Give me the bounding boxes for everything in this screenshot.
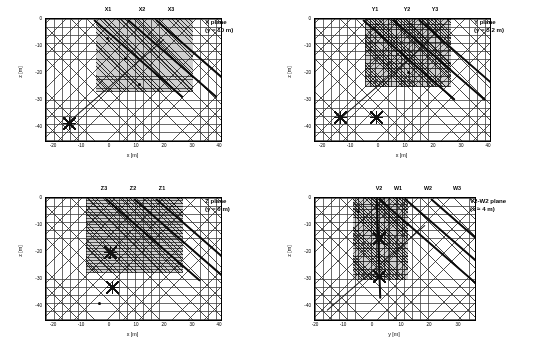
x-tick: 20 <box>161 322 166 327</box>
borehole-label: W2 <box>424 185 432 191</box>
node-cluster <box>106 281 119 294</box>
x-tick: 30 <box>189 143 194 148</box>
borehole-label: Y2 <box>404 6 411 12</box>
x-tick: -20 <box>50 322 57 327</box>
plot-area-v2-w2-plane <box>314 197 476 321</box>
y-tick: -40 <box>297 124 311 129</box>
borehole-label: X1 <box>105 6 112 12</box>
x-axis-label: x [m] <box>45 331 220 337</box>
x-tick: 20 <box>161 143 166 148</box>
x-tick: 0 <box>108 143 111 148</box>
x-axis-label: x [m] <box>314 152 489 158</box>
y-tick: -10 <box>28 222 42 227</box>
y-tick: -30 <box>28 276 42 281</box>
x-axis-label: y [m] <box>314 331 474 337</box>
x-tick: 0 <box>371 322 374 327</box>
x-tick: -10 <box>347 143 354 148</box>
y-axis-label: z [m] <box>17 245 23 257</box>
panel-title-line2: (x ≈ 4 m) <box>470 205 538 213</box>
panel-title-z-plane: Z plane (y = 0 m) <box>205 197 267 213</box>
y-tick: 0 <box>297 195 311 200</box>
panel-v2-w2-plane: V2 W1 W2 W3 V2-W2 plane (x ≈ 4 m) 0 -10 … <box>269 179 538 358</box>
panel-title-line2: (y = 10 m) <box>205 26 267 34</box>
y-tick: -10 <box>28 43 42 48</box>
y-tick: -20 <box>28 249 42 254</box>
y-tick: -30 <box>297 97 311 102</box>
borehole-label: X3 <box>168 6 175 12</box>
y-tick: 0 <box>28 16 42 21</box>
refined-mesh-region <box>365 19 451 87</box>
x-tick: 0 <box>108 322 111 327</box>
y-tick: -30 <box>297 276 311 281</box>
y-axis-label: z [m] <box>17 66 23 78</box>
y-tick: -10 <box>297 43 311 48</box>
y-tick: -30 <box>28 97 42 102</box>
x-tick: -20 <box>319 143 326 148</box>
panel-title-y-plane: Y plane (y = 5.2 m) <box>474 18 536 34</box>
x-tick: -20 <box>50 143 57 148</box>
x-tick: 0 <box>377 143 380 148</box>
y-axis-label: z [m] <box>286 245 292 257</box>
panel-y-plane: Y1 Y2 Y3 Y plane (y = 5.2 m) 0 -10 -20 -… <box>269 0 538 179</box>
x-tick: 10 <box>133 322 138 327</box>
mesh-node <box>357 210 360 213</box>
x-tick: 10 <box>402 143 407 148</box>
panel-x-plane: X1 X2 X3 X plane (y = 10 m) 0 -10 -20 -3… <box>0 0 269 179</box>
panel-z-plane: Z3 Z2 Z1 Z plane (y = 0 m) 0 -10 -20 -30… <box>0 179 269 358</box>
x-tick: 20 <box>426 322 431 327</box>
mesh-node <box>108 256 111 259</box>
plot-area-x-plane <box>45 18 222 142</box>
borehole-label: X2 <box>139 6 146 12</box>
node-cluster <box>63 117 76 130</box>
mesh-node <box>106 37 109 40</box>
x-tick: 10 <box>133 143 138 148</box>
panel-title-line2: (y = 5.2 m) <box>474 26 536 34</box>
mesh-node <box>407 71 410 74</box>
panel-title-v2-w2-plane: V2-W2 plane (x ≈ 4 m) <box>470 197 538 213</box>
x-tick: 40 <box>216 322 221 327</box>
y-axis-label: z [m] <box>286 66 292 78</box>
panel-title-line1: X plane <box>205 18 267 26</box>
x-tick: 20 <box>430 143 435 148</box>
node-cluster <box>373 270 386 283</box>
borehole-label: V2 <box>376 185 383 191</box>
x-tick: -20 <box>312 322 319 327</box>
mesh-node <box>124 57 127 60</box>
x-tick: 10 <box>398 322 403 327</box>
panel-title-line1: Z plane <box>205 197 267 205</box>
y-tick: -40 <box>28 303 42 308</box>
x-tick: 40 <box>216 143 221 148</box>
panel-title-x-plane: X plane (y = 10 m) <box>205 18 267 34</box>
borehole-label: Z1 <box>159 185 165 191</box>
mesh-figure: X1 X2 X3 X plane (y = 10 m) 0 -10 -20 -3… <box>0 0 538 358</box>
plot-area-y-plane <box>314 18 491 142</box>
node-cluster <box>334 111 347 124</box>
mesh-node <box>138 83 141 86</box>
y-tick: -40 <box>28 124 42 129</box>
panel-title-line2: (y = 0 m) <box>205 205 267 213</box>
borehole-label: Y3 <box>432 6 439 12</box>
y-tick: -20 <box>297 70 311 75</box>
panel-title-line1: Y plane <box>474 18 536 26</box>
y-tick: -10 <box>297 222 311 227</box>
node-cluster <box>373 232 386 245</box>
panel-title-line1: V2-W2 plane <box>470 197 538 205</box>
mesh-node <box>98 302 101 305</box>
borehole-label: Y1 <box>372 6 379 12</box>
borehole-label: Z2 <box>130 185 136 191</box>
borehole-label: Z3 <box>101 185 107 191</box>
y-tick: 0 <box>28 195 42 200</box>
x-tick: 40 <box>485 143 490 148</box>
y-tick: -40 <box>297 303 311 308</box>
x-axis-label: x [m] <box>45 152 220 158</box>
node-cluster <box>370 111 383 124</box>
x-tick: -10 <box>78 322 85 327</box>
x-tick: 30 <box>189 322 194 327</box>
borehole-label: W1 <box>394 185 402 191</box>
y-tick: 0 <box>297 16 311 21</box>
plot-area-z-plane <box>45 197 222 321</box>
x-tick: 30 <box>458 143 463 148</box>
borehole-label: W3 <box>453 185 461 191</box>
x-tick: 30 <box>455 322 460 327</box>
x-tick: -10 <box>78 143 85 148</box>
